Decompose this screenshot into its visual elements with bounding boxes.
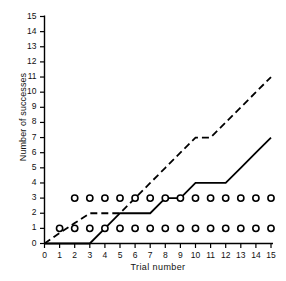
marker-open-circle [162, 225, 168, 231]
plot-area [0, 0, 286, 281]
marker-open-circle [162, 195, 168, 201]
marker-open-circle [223, 225, 229, 231]
marker-open-circle [238, 225, 244, 231]
marker-open-circle [72, 225, 78, 231]
marker-open-circle [268, 195, 274, 201]
marker-open-circle [192, 195, 198, 201]
marker-open-circle [208, 195, 214, 201]
axes [40, 16, 273, 249]
series-dashed-cumulative-record [45, 77, 272, 243]
marker-open-circle [192, 225, 198, 231]
marker-open-circle [117, 225, 123, 231]
data-series [45, 77, 272, 243]
cumulative-record-chart: Number of successes Trial number 0123456… [0, 0, 286, 281]
marker-open-circle [147, 195, 153, 201]
marker-open-circle [147, 225, 153, 231]
marker-open-circle [87, 195, 93, 201]
marker-open-circle [208, 225, 214, 231]
marker-open-circle [132, 225, 138, 231]
marker-open-circle [177, 195, 183, 201]
marker-open-circle [223, 195, 229, 201]
marker-open-circle [253, 195, 259, 201]
marker-open-circle [117, 195, 123, 201]
marker-open-circle [177, 225, 183, 231]
marker-open-circle [72, 195, 78, 201]
marker-open-circle [57, 225, 63, 231]
marker-open-circle [87, 225, 93, 231]
marker-open-circle [102, 225, 108, 231]
marker-open-circle [132, 195, 138, 201]
marker-open-circle [253, 225, 259, 231]
data-markers [57, 195, 275, 231]
marker-open-circle [268, 225, 274, 231]
marker-open-circle [238, 195, 244, 201]
marker-open-circle [102, 195, 108, 201]
